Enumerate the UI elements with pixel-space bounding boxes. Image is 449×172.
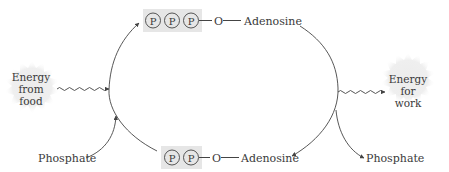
energy-out-wavy-arrow [338, 91, 385, 94]
svg-text:P: P [188, 153, 195, 164]
energy-in-wavy-arrow [57, 88, 109, 91]
hydrolysis-arc [292, 26, 338, 156]
svg-text:P: P [169, 16, 176, 27]
synthesis-arc [109, 23, 157, 151]
svg-text:P: P [188, 16, 195, 27]
svg-text:P: P [169, 153, 176, 164]
oxygen-label: O [214, 15, 223, 28]
adenosine-label: Adenosine [243, 15, 302, 28]
adp-phosphate-box [161, 146, 202, 169]
svg-text:P: P [150, 16, 157, 27]
atp-molecule: P P P O Adenosine [143, 9, 302, 32]
energy-from-food-line2: from [18, 83, 43, 95]
adp-molecule: P P O Adenosine [161, 146, 299, 169]
phosphate-in-label: Phosphate [38, 152, 96, 165]
energy-from-food-line1: Energy [12, 71, 50, 83]
phosphate-out-arrow [336, 110, 364, 158]
oxygen-label: O [212, 152, 221, 165]
atp-cycle-diagram: Energy from food Energy for work P P P O… [0, 0, 449, 172]
energy-for-work-line2: for [400, 85, 416, 97]
energy-from-food-line3: food [19, 95, 43, 107]
phosphate-out-label: Phosphate [366, 152, 424, 165]
energy-for-work-line1: Energy [389, 73, 427, 85]
adenosine-label: Adenosine [240, 152, 299, 165]
energy-for-work-line3: work [395, 97, 422, 109]
